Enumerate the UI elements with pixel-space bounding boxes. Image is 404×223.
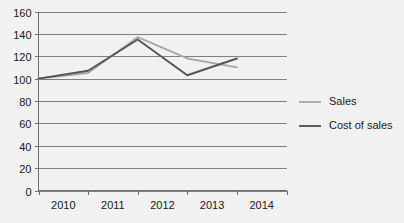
x-tick-label-2013: 2013 [200,199,224,211]
y-tick-label: 0 [25,186,31,198]
x-tick-label-2010: 2010 [51,199,75,211]
legend-label-sales: Sales [329,95,357,107]
y-tick-label: 160 [13,7,31,19]
chart-canvas: 020406080100120140160 201020112012201320… [0,0,404,223]
x-tick-label-2012: 2012 [150,199,174,211]
y-tick-label: 60 [19,118,31,130]
y-tick-label: 80 [19,96,31,108]
chart-background [0,0,404,223]
y-tick-label: 120 [13,51,31,63]
line-chart: 020406080100120140160 201020112012201320… [0,0,404,223]
x-tick-label-2011: 2011 [101,199,125,211]
y-tick-label: 20 [19,163,31,175]
y-tick-label: 40 [19,141,31,153]
y-tick-label: 140 [13,29,31,41]
y-tick-label: 100 [13,74,31,86]
legend-label-cost-of-sales: Cost of sales [329,119,393,131]
x-tick-label-2014: 2014 [249,199,273,211]
